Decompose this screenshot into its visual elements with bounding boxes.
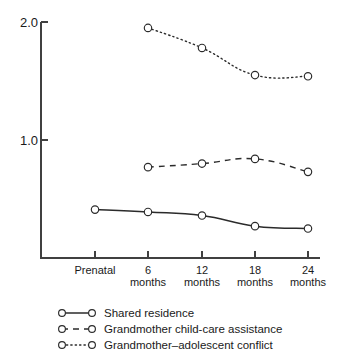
legend-marker-left-solid [59, 310, 66, 317]
legend-item-childcare-assistance[interactable]: Grandmother child-care assistance [59, 323, 283, 335]
legend-label-childcare-assistance: Grandmother child-care assistance [104, 323, 282, 335]
series-layer [91, 24, 311, 232]
legend-item-shared-residence[interactable]: Shared residence [59, 307, 195, 319]
xtick-label-24: 24 [302, 264, 314, 276]
series-line-grandmother-child-care-assistance [148, 158, 308, 171]
series-grandmother-adolescent-conflict [144, 24, 311, 80]
chart-legend: Shared residence Grandmother child-care … [59, 307, 283, 351]
legend-item-adolescent-conflict[interactable]: Grandmother–adolescent conflict [59, 339, 274, 351]
xtick-label-6-unit: months [130, 276, 167, 288]
xtick-label-prenatal: Prenatal [75, 264, 116, 276]
data-point[interactable] [198, 160, 205, 167]
chart-axes [41, 22, 320, 258]
data-point[interactable] [198, 44, 205, 51]
series-grandmother-child-care-assistance [144, 155, 311, 175]
data-point[interactable] [304, 168, 311, 175]
series-shared-residence [91, 206, 311, 232]
legend-marker-right-dashed [89, 326, 96, 333]
data-point[interactable] [304, 73, 311, 80]
legend-marker-left-dotted [59, 342, 66, 349]
xtick-label-6: 6 [145, 264, 151, 276]
xtick-label-24-unit: months [290, 276, 327, 288]
legend-label-shared-residence: Shared residence [104, 307, 194, 319]
data-point[interactable] [144, 163, 151, 170]
xtick-label-18-unit: months [237, 276, 274, 288]
legend-marker-right-solid [89, 310, 96, 317]
legend-marker-left-dashed [59, 326, 66, 333]
xtick-label-12: 12 [196, 264, 208, 276]
line-chart: 2.0 1.0 Prenatal 6 months 12 months 18 m… [0, 0, 342, 359]
xtick-label-12-unit: months [184, 276, 221, 288]
data-point[interactable] [144, 208, 151, 215]
legend-label-adolescent-conflict: Grandmother–adolescent conflict [104, 339, 274, 351]
data-point[interactable] [91, 206, 98, 213]
data-point[interactable] [304, 225, 311, 232]
series-line-grandmother-adolescent-conflict [148, 28, 308, 78]
chart-figure: 2.0 1.0 Prenatal 6 months 12 months 18 m… [0, 0, 342, 359]
data-point[interactable] [198, 212, 205, 219]
data-point[interactable] [251, 71, 258, 78]
data-point[interactable] [251, 222, 258, 229]
data-point[interactable] [144, 24, 151, 31]
ytick-label-2: 2.0 [20, 15, 38, 30]
data-point[interactable] [251, 155, 258, 162]
legend-marker-right-dotted [89, 342, 96, 349]
ytick-label-1: 1.0 [20, 133, 38, 148]
xtick-label-18: 18 [249, 264, 261, 276]
